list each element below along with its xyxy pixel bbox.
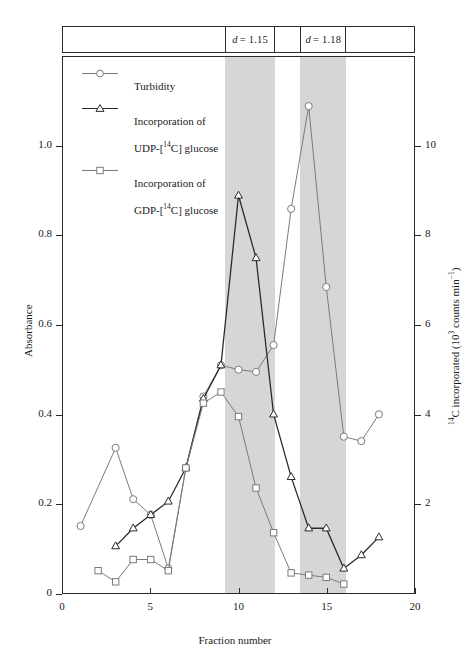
y-tick-right-2 [415,325,421,326]
y-tick-left-4 [56,235,62,236]
data-point [305,524,313,531]
y-tick-right-3 [415,235,421,236]
density-label-cell-1: d = 1.15 [225,27,274,52]
y-tick-label-right-0: 2 [425,496,431,508]
x-tick-3 [327,588,328,594]
data-point [112,579,118,585]
legend-label-udp-line1: Incorporation of [134,115,206,127]
legend-item-turbidity: Turbidity [80,66,300,93]
legend-label-gdp-isotope: 14 [163,202,171,211]
series-3 [95,389,347,587]
series-line [116,195,379,568]
density-symbol-1: d [232,34,239,45]
y-tick-left-0 [56,594,62,595]
legend-item-udp: Incorporation of UDP-[14C] glucose [80,101,300,155]
data-point [200,400,206,406]
data-point [341,581,347,587]
series-2 [112,191,383,571]
y-tick-label-right-1: 4 [425,407,431,419]
data-point [270,342,277,349]
legend-label-turbidity-text: Turbidity [134,80,175,92]
legend-marker-circle-icon [80,66,120,81]
data-point [130,496,137,503]
y-tick-label-left-0: 0 [16,586,52,598]
density-value-1: = 1.15 [240,34,268,45]
y-tick-label-right-2: 6 [425,317,431,329]
x-tick-4 [415,588,416,594]
legend-marker-square-icon [80,163,120,178]
density-symbol-2: d [306,34,313,45]
y-tick-right-0 [415,504,421,505]
x-tick-label-0: 0 [42,600,82,612]
data-point [252,368,259,375]
x-tick-label-1: 5 [130,600,170,612]
data-point [305,103,312,110]
x-tick-label-4: 20 [395,600,435,612]
data-point [323,283,330,290]
data-point [306,572,312,578]
y-tick-left-1 [56,504,62,505]
data-point [112,444,119,451]
y-axis-title-right-close: ) [449,268,461,272]
data-point [164,497,172,504]
data-point [340,433,347,440]
y-tick-label-left-1: 0.2 [16,496,52,508]
data-point [375,533,383,540]
y-tick-left-5 [56,146,62,147]
data-point [323,574,329,580]
density-header-strip: d = 1.15 d = 1.18 [62,26,415,53]
data-point [148,556,154,562]
data-point [130,556,136,562]
legend-label-gdp-line1: Incorporation of [134,177,206,189]
y-tick-right-1 [415,415,421,416]
data-point [288,570,294,576]
x-tick-2 [239,588,240,594]
y-tick-label-left-5: 1.0 [16,138,52,150]
y-tick-label-right-4: 10 [425,138,436,150]
y-axis-title-right-sup-exp: 3 [447,331,456,335]
x-tick-label-3: 15 [307,600,347,612]
data-point [95,567,101,573]
legend-label-udp-line2-pre: UDP-[ [134,142,163,154]
x-tick-1 [150,588,151,594]
legend-item-gdp: Incorporation of GDP-[14C] glucose [80,163,300,217]
data-point [77,522,84,529]
legend-label-udp-isotope: 14 [163,140,171,149]
legend-label-udp: Incorporation of UDP-[14C] glucose [120,101,218,155]
legend-label-gdp-line2-post: C] glucose [171,204,218,216]
data-point [252,254,260,261]
data-point [253,485,259,491]
data-point [165,567,171,573]
x-tick-label-2: 10 [219,600,259,612]
y-axis-title-left: Absorbance [22,304,34,357]
legend-label-udp-line2-post: C] glucose [171,142,218,154]
y-tick-label-left-4: 0.8 [16,227,52,239]
data-point [129,524,137,531]
y-tick-left-2 [56,415,62,416]
data-point [218,389,224,395]
data-point [358,438,365,445]
legend: Turbidity Incorporation of UDP-[14C] glu… [80,66,300,225]
y-axis-title-right-sup-mass: 14 [447,418,456,426]
y-tick-right-4 [415,146,421,147]
x-tick-0 [62,588,63,594]
legend-label-gdp: Incorporation of GDP-[14C] glucose [120,163,218,217]
legend-marker-triangle-icon [80,101,120,116]
data-point [322,524,330,531]
y-axis-title-right-sup-inv: −1 [447,271,456,279]
x-axis-title: Fraction number [0,634,470,646]
density-value-2: = 1.18 [313,34,341,45]
data-point [235,413,241,419]
density-label-cell-2: d = 1.18 [300,27,346,52]
data-point [235,366,242,373]
data-point [270,410,278,417]
legend-label-turbidity: Turbidity [120,66,175,93]
data-point [183,465,189,471]
y-tick-label-left-2: 0.4 [16,407,52,419]
data-point [375,411,382,418]
series-line [98,392,344,584]
y-axis-title-right-tail: counts min [449,279,461,330]
figure-root: d = 1.15 d = 1.18 00.20.40.60.81.0246810… [0,0,470,657]
y-axis-title-right: 14C incorporated (103 counts min−1) [449,268,461,425]
data-point [270,530,276,536]
